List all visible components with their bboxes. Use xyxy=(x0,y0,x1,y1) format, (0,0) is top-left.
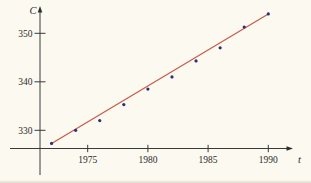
y-axis-tick-label: 340 xyxy=(18,77,33,87)
data-point xyxy=(74,129,77,132)
data-point xyxy=(243,25,246,28)
chart-canvas: C t 3303403501975198019851990 xyxy=(0,0,311,183)
data-point xyxy=(170,75,173,78)
co2-scatter-chart: C t 3303403501975198019851990 xyxy=(0,0,311,183)
data-point xyxy=(122,103,125,106)
x-axis-tick-label: 1980 xyxy=(138,155,157,165)
y-axis-tick-label: 330 xyxy=(18,126,33,136)
data-point xyxy=(194,59,197,62)
y-axis-tick-label: 350 xyxy=(18,29,33,39)
data-point xyxy=(146,87,149,90)
x-axis-arrow-icon xyxy=(287,146,294,151)
x-axis-tick-label: 1975 xyxy=(78,155,97,165)
y-axis-arrow-icon xyxy=(38,6,43,13)
data-point xyxy=(50,142,53,145)
data-point xyxy=(267,12,270,15)
regression-line-group xyxy=(52,14,269,143)
data-point xyxy=(98,119,101,122)
y-axis-label: C xyxy=(29,5,37,16)
x-axis-tick-label: 1990 xyxy=(259,155,278,165)
x-axis-tick-label: 1985 xyxy=(199,155,218,165)
linear-model-line xyxy=(52,14,269,143)
data-point xyxy=(219,46,222,49)
axis-ticks: 3303403501975198019851990 xyxy=(18,29,278,165)
x-axis-label: t xyxy=(298,154,302,165)
